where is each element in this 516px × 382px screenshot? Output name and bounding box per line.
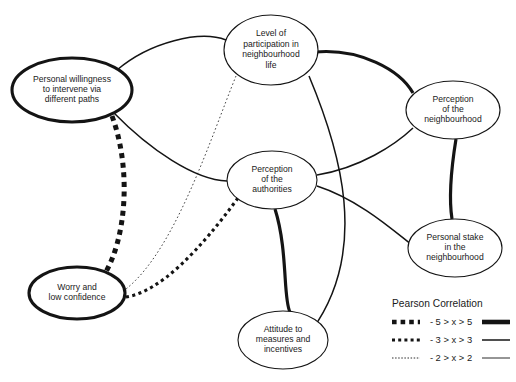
edge-perception_authorities-personal_stake — [317, 186, 412, 245]
legend-range-row-weak: - 2 > x > 2 — [430, 352, 472, 363]
network-diagram-canvas: Personal willingnessto intervene viadiff… — [0, 0, 516, 382]
edge-perception_authorities-perception_neighbourhood — [317, 128, 413, 175]
edge-willingness-worry — [104, 116, 124, 275]
edge-willingness-participation — [117, 37, 226, 70]
edge-perception_neighbourhood-personal_stake — [451, 139, 456, 219]
legend-row-strong: - 5 > x > 5 — [392, 316, 510, 327]
legend-row-weak: - 2 > x > 2 — [392, 352, 510, 363]
node-perception_neighbourhood[interactable]: Perceptionof theneighbourhood — [406, 81, 500, 139]
edge-participation-worry — [126, 76, 236, 289]
legend-title: Pearson Correlation — [392, 298, 483, 309]
node-worry[interactable]: Worry andlow confidence — [29, 267, 125, 319]
legend-range-row-strong: - 5 > x > 5 — [430, 316, 472, 327]
diagram-root: Personal willingnessto intervene viadiff… — [0, 0, 516, 382]
edge-willingness-perception_authorities — [113, 112, 227, 181]
legend-range-row-moderate: - 3 > x > 3 — [430, 334, 472, 345]
node-personal_stake[interactable]: Personal stakein theneighbourhood — [408, 219, 502, 277]
legend-row-moderate: - 3 > x > 3 — [392, 334, 510, 345]
edge-perception_authorities-worry — [126, 198, 238, 297]
node-participation[interactable]: Level ofparticipation inneighbourhoodlif… — [224, 15, 318, 85]
edge-perception_authorities-attitude — [275, 209, 290, 312]
node-perception_authorities[interactable]: Perceptionof theauthorities — [227, 151, 317, 209]
node-attitude[interactable]: Attitude tomeasures andincentives — [238, 311, 328, 369]
node-willingness[interactable]: Personal willingnessto intervene viadiff… — [12, 58, 132, 122]
edge-participation-attitude — [309, 76, 345, 330]
node-layer: Personal willingnessto intervene viadiff… — [12, 15, 502, 369]
edge-participation-perception_neighbourhood — [315, 52, 413, 93]
legend-layer: Pearson Correlation- 5 > x > 5- 3 > x > … — [392, 298, 510, 363]
